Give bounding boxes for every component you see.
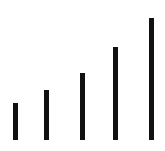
bar-1	[13, 103, 18, 140]
bar-chart	[0, 0, 165, 151]
bar-5	[149, 18, 154, 140]
bar-3	[80, 73, 85, 140]
bar-4	[113, 47, 118, 140]
bar-2	[44, 90, 49, 140]
